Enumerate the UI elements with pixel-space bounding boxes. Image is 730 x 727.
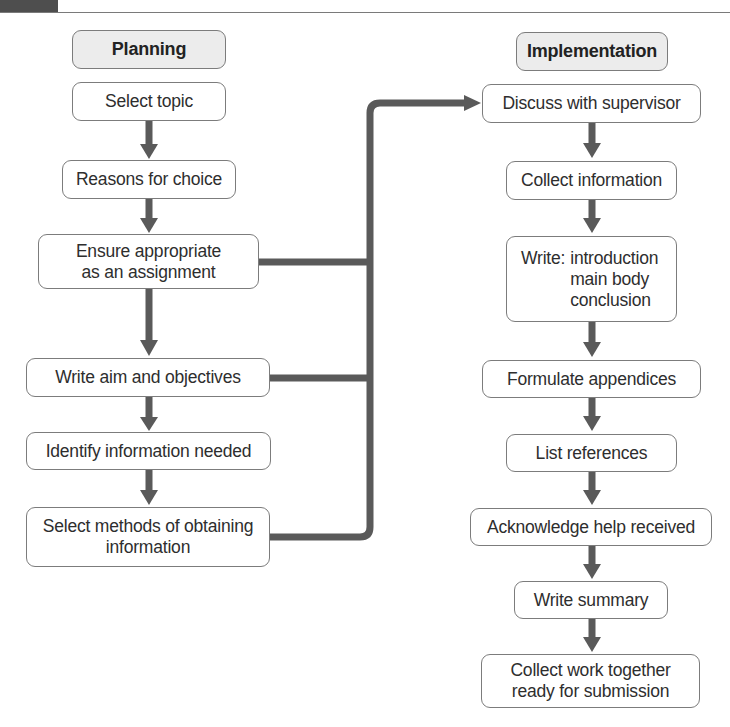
step-label: Reasons for choice: [76, 169, 222, 190]
step-label: Discuss with supervisor: [502, 93, 680, 114]
step-label: Identify information needed: [46, 441, 252, 462]
flowchart-canvas: Planning Select topic Reasons for choice…: [0, 0, 730, 727]
step-label-line2: information: [106, 537, 190, 558]
step-label: Formulate appendices: [507, 369, 676, 390]
planning-title: Planning: [112, 39, 186, 60]
header-rule: [0, 12, 730, 13]
step-label-line1: Select methods of obtaining: [43, 516, 254, 537]
arrow-down-icon: [583, 398, 601, 431]
step-ensure-appropriate: Ensure appropriate as an assignment: [38, 234, 259, 289]
step-write-aim-objectives: Write aim and objectives: [26, 358, 270, 397]
write-section-conclusion: conclusion: [570, 290, 658, 311]
step-select-methods: Select methods of obtaining information: [26, 507, 270, 567]
planning-header: Planning: [72, 30, 226, 69]
step-select-topic: Select topic: [72, 82, 226, 121]
arrow-down-icon: [583, 322, 601, 357]
write-section-main-body: main body: [570, 269, 658, 290]
implementation-title: Implementation: [527, 41, 657, 62]
arrow-down-icon: [140, 397, 158, 431]
step-acknowledge-help: Acknowledge help received: [470, 508, 712, 546]
step-identify-information: Identify information needed: [26, 432, 271, 470]
step-discuss-supervisor: Discuss with supervisor: [482, 84, 701, 123]
step-label: Select topic: [105, 91, 193, 112]
step-label: Acknowledge help received: [487, 517, 695, 538]
write-section-introduction: introduction: [570, 248, 658, 269]
step-write-summary: Write summary: [514, 581, 668, 619]
arrow-down-icon: [140, 121, 158, 159]
arrow-right-icon: [464, 95, 481, 111]
arrow-down-icon: [583, 123, 601, 158]
bus-connector: [259, 103, 466, 537]
arrow-down-icon: [583, 200, 601, 233]
implementation-header: Implementation: [516, 32, 668, 71]
step-label: Write summary: [534, 590, 649, 611]
step-label: Write aim and objectives: [55, 367, 241, 388]
write-prefix: Write:: [521, 248, 565, 311]
step-label-line2: as an assignment: [82, 262, 216, 283]
step-reasons-for-choice: Reasons for choice: [62, 160, 236, 199]
step-collect-information: Collect information: [506, 161, 677, 200]
arrow-down-icon: [140, 470, 158, 505]
step-collect-work-together: Collect work together ready for submissi…: [481, 654, 700, 708]
step-label: List references: [536, 443, 648, 464]
step-label: Collect information: [521, 170, 662, 191]
write-section-list: introduction main body conclusion: [570, 248, 658, 311]
arrow-down-icon: [140, 199, 158, 233]
write-sections-text: Write: introduction main body conclusion: [521, 248, 658, 311]
arrow-down-icon: [140, 289, 158, 356]
header-bar: [0, 0, 58, 12]
arrow-down-icon: [583, 619, 601, 652]
step-label-line2: ready for submission: [512, 681, 669, 702]
arrow-down-icon: [583, 546, 601, 579]
arrow-down-icon: [583, 472, 601, 505]
step-label-line1: Collect work together: [510, 660, 670, 681]
step-formulate-appendices: Formulate appendices: [482, 360, 701, 398]
step-write-sections: Write: introduction main body conclusion: [506, 236, 677, 322]
step-list-references: List references: [506, 434, 677, 472]
step-label-line1: Ensure appropriate: [76, 241, 221, 262]
